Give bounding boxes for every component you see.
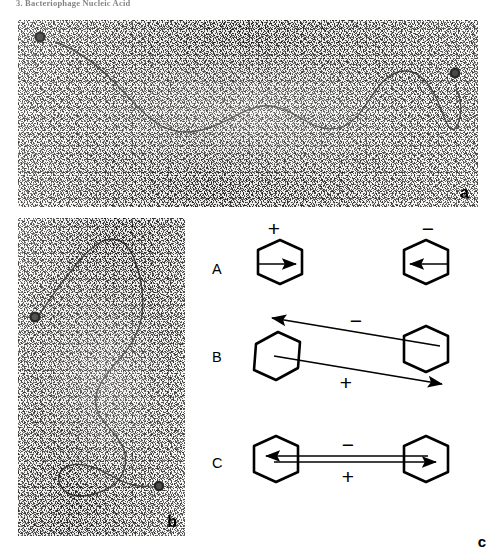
hexagon-c-left xyxy=(254,436,298,482)
hexagon-b-right xyxy=(404,326,448,372)
schematic-row-a: A + − xyxy=(212,222,448,284)
filament-trace-b xyxy=(18,218,185,536)
schematic-row-b: B − + xyxy=(212,309,448,394)
sign-c-plus: + xyxy=(342,465,354,488)
polarity-arrow-b-plus xyxy=(274,356,442,384)
row-label-c: C xyxy=(212,455,222,471)
schematic-row-c: C − + xyxy=(212,433,448,488)
filament-trace-a xyxy=(18,20,478,207)
sign-c-minus: − xyxy=(342,433,354,456)
panel-label-b: b xyxy=(167,514,177,530)
micrograph-panel-a: a xyxy=(18,20,478,207)
sign-b-minus: − xyxy=(350,309,362,332)
hexagon-a-right xyxy=(404,240,448,284)
sign-a-right: − xyxy=(422,222,434,240)
sign-b-plus: + xyxy=(340,371,352,394)
micrograph-panel-b: b xyxy=(18,218,185,536)
hexagon-c-right xyxy=(404,436,448,482)
panel-label-c: c xyxy=(478,533,486,550)
hexagon-a-left xyxy=(258,240,302,284)
schematic-panel-c: A + − B − xyxy=(196,222,494,560)
row-label-b: B xyxy=(212,349,222,365)
sign-a-left: + xyxy=(268,222,280,240)
panel-label-a: a xyxy=(460,185,469,201)
row-label-a: A xyxy=(212,261,222,277)
running-head: 3. Bacteriophage Nucleic Acid xyxy=(16,0,130,8)
